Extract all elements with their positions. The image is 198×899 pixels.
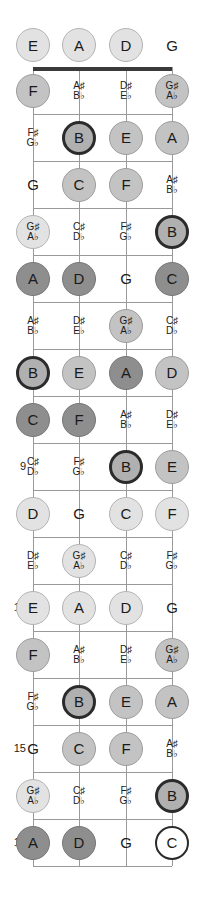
note-marker[interactable]: B [155, 215, 189, 249]
note-label: A [121, 365, 131, 380]
note-marker[interactable]: F♯G♭ [109, 215, 143, 249]
note-marker[interactable]: G [155, 28, 189, 62]
note-label: C [167, 271, 178, 286]
note-marker[interactable]: D [155, 356, 189, 390]
note-label-flat: G♭ [27, 138, 40, 148]
note-marker[interactable]: D♯E♭ [155, 403, 189, 437]
note-marker[interactable]: E [109, 685, 143, 719]
note-label-sharp: F♯ [73, 457, 86, 467]
note-marker[interactable]: C [62, 168, 96, 202]
note-marker[interactable]: F♯G♭ [16, 685, 50, 719]
note-label: D [121, 600, 132, 615]
note-marker[interactable]: D♯E♭ [62, 309, 96, 343]
note-label-sharp: D♯ [120, 645, 132, 655]
note-marker[interactable]: F♯G♭ [62, 450, 96, 484]
note-label-sharp: A♯ [73, 645, 85, 655]
note-marker[interactable]: D [109, 28, 143, 62]
note-marker[interactable]: A [155, 685, 189, 719]
note-marker[interactable]: B [62, 685, 96, 719]
note-label: G♯A♭ [27, 786, 40, 806]
note-marker[interactable]: A [16, 262, 50, 296]
note-label: E [74, 365, 84, 380]
note-marker[interactable]: A [62, 28, 96, 62]
note-label-flat: A♭ [27, 796, 40, 806]
note-label: F♯G♭ [120, 786, 133, 806]
note-marker[interactable]: C [155, 826, 189, 860]
note-marker[interactable]: G♯A♭ [16, 215, 50, 249]
note-marker[interactable]: G [16, 168, 50, 202]
note-marker[interactable]: G♯A♭ [155, 74, 189, 108]
note-marker[interactable]: F [109, 168, 143, 202]
note-marker[interactable]: E [155, 450, 189, 484]
note-marker[interactable]: F [155, 497, 189, 531]
note-marker[interactable]: G♯A♭ [16, 779, 50, 813]
note-marker[interactable]: A♯B♭ [16, 309, 50, 343]
note-marker[interactable]: D [62, 826, 96, 860]
note-marker[interactable]: A [109, 356, 143, 390]
note-marker[interactable]: G [109, 826, 143, 860]
note-label: G [166, 600, 178, 615]
note-marker[interactable]: F♯G♭ [16, 121, 50, 155]
note-label: B [28, 365, 38, 380]
note-marker[interactable]: B [62, 121, 96, 155]
note-marker[interactable]: C♯D♭ [62, 215, 96, 249]
note-marker[interactable]: D♯E♭ [16, 544, 50, 578]
note-label-sharp: D♯ [27, 551, 39, 561]
fret-line-9 [33, 490, 172, 491]
note-marker[interactable]: G♯A♭ [109, 309, 143, 343]
note-marker[interactable]: B [155, 779, 189, 813]
note-marker[interactable]: A♯B♭ [62, 638, 96, 672]
note-marker[interactable]: F [16, 638, 50, 672]
note-marker[interactable]: D♯E♭ [109, 74, 143, 108]
note-marker[interactable]: B [16, 356, 50, 390]
note-marker[interactable]: E [16, 591, 50, 625]
note-marker[interactable]: E [16, 28, 50, 62]
note-marker[interactable]: E [62, 356, 96, 390]
note-marker[interactable]: A [62, 591, 96, 625]
note-marker[interactable]: C [109, 497, 143, 531]
note-marker[interactable]: A♯B♭ [155, 168, 189, 202]
note-label-flat: E♭ [73, 326, 85, 336]
fret-line-5 [33, 302, 172, 303]
note-marker[interactable]: C♯D♭ [62, 779, 96, 813]
note-label-flat: B♭ [73, 91, 85, 101]
note-marker[interactable]: B [109, 450, 143, 484]
note-marker[interactable]: G [62, 497, 96, 531]
note-marker[interactable]: A♯B♭ [62, 74, 96, 108]
note-marker[interactable]: C [16, 403, 50, 437]
note-marker[interactable]: A [16, 826, 50, 860]
note-marker[interactable]: A [155, 121, 189, 155]
note-marker[interactable]: C [62, 732, 96, 766]
note-marker[interactable]: E [109, 121, 143, 155]
note-marker[interactable]: F♯G♭ [109, 779, 143, 813]
note-label: G [27, 177, 39, 192]
note-marker[interactable]: C♯D♭ [16, 450, 50, 484]
note-marker[interactable]: G [155, 591, 189, 625]
note-marker[interactable]: A♯B♭ [109, 403, 143, 437]
note-marker[interactable]: G♯A♭ [62, 544, 96, 578]
note-marker[interactable]: F [109, 732, 143, 766]
note-marker[interactable]: D♯E♭ [109, 638, 143, 672]
note-marker[interactable]: F♯G♭ [155, 544, 189, 578]
note-label: F [28, 647, 37, 662]
fret-line-7 [33, 396, 172, 397]
note-marker[interactable]: G [109, 262, 143, 296]
note-marker[interactable]: A♯B♭ [155, 732, 189, 766]
note-label: F♯G♭ [166, 551, 179, 571]
note-marker[interactable]: G [16, 732, 50, 766]
note-marker[interactable]: C♯D♭ [155, 309, 189, 343]
note-label: G [73, 506, 85, 521]
note-marker[interactable]: G♯A♭ [155, 638, 189, 672]
note-label: G [120, 271, 132, 286]
note-marker[interactable]: F [16, 74, 50, 108]
note-marker[interactable]: C♯D♭ [109, 544, 143, 578]
note-marker[interactable]: F [62, 403, 96, 437]
note-marker[interactable]: C [155, 262, 189, 296]
note-marker[interactable]: D [16, 497, 50, 531]
note-marker[interactable]: D [62, 262, 96, 296]
note-label-sharp: C♯ [73, 222, 85, 232]
note-marker[interactable]: D [109, 591, 143, 625]
note-label: D [74, 271, 85, 286]
note-label: G [27, 741, 39, 756]
note-label-flat: D♭ [73, 232, 85, 242]
